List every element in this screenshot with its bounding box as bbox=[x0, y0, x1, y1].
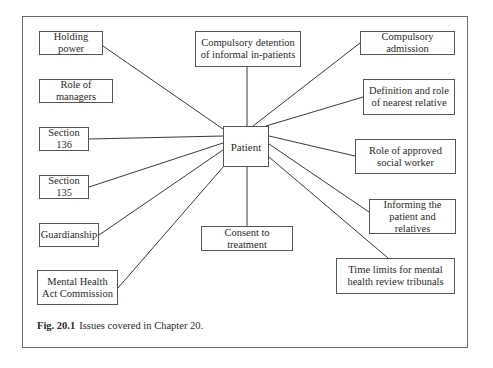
compulsory-detention-node: Compulsory detention of informal in-pati… bbox=[195, 31, 301, 67]
section-136-label: Section 136 bbox=[43, 127, 85, 151]
approved-social-worker-label: Role of approved social worker bbox=[359, 145, 452, 169]
connector-nearest-relative bbox=[266, 97, 363, 126]
guardianship-node: Guardianship bbox=[39, 223, 99, 247]
connector-guardianship bbox=[99, 150, 223, 235]
informing-label: Informing the patient and relatives bbox=[373, 199, 452, 235]
section-135-node: Section 135 bbox=[39, 175, 89, 199]
nearest-relative-label: Definition and role of nearest relative bbox=[367, 85, 451, 109]
approved-social-worker-node: Role of approved social worker bbox=[355, 139, 456, 174]
holding-power-label: Holding power bbox=[43, 31, 99, 55]
section-136-node: Section 136 bbox=[39, 127, 89, 151]
mhac-label: Mental Health Act Commission bbox=[41, 276, 114, 300]
time-limits-node: Time limits for mental health review tri… bbox=[336, 258, 455, 294]
compulsory-detention-label: Compulsory detention of informal in-pati… bbox=[199, 37, 297, 61]
informing-node: Informing the patient and relatives bbox=[369, 199, 456, 234]
figure-caption-text: Issues covered in Chapter 20. bbox=[79, 320, 203, 331]
figure-number: Fig. 20.1 bbox=[37, 320, 75, 331]
compulsory-admission-label: Compulsory admission bbox=[364, 31, 451, 55]
holding-power-node: Holding power bbox=[39, 31, 103, 55]
connector-section-136 bbox=[89, 136, 223, 139]
nearest-relative-node: Definition and role of nearest relative bbox=[363, 79, 455, 115]
consent-label: Consent to treatment bbox=[205, 227, 289, 251]
mhac-node: Mental Health Act Commission bbox=[37, 270, 118, 305]
figure-caption: Fig. 20.1Issues covered in Chapter 20. bbox=[37, 320, 203, 331]
section-135-label: Section 135 bbox=[43, 175, 85, 199]
time-limits-label: Time limits for mental health review tri… bbox=[340, 264, 451, 288]
patient-node: Patient bbox=[223, 126, 269, 167]
guardianship-label: Guardianship bbox=[41, 229, 98, 241]
connector-section-135 bbox=[89, 143, 223, 187]
compulsory-admission-node: Compulsory admission bbox=[360, 31, 455, 55]
connector-informing bbox=[269, 144, 369, 212]
role-of-managers-node: Role of managers bbox=[39, 79, 113, 103]
role-of-managers-label: Role of managers bbox=[43, 79, 109, 103]
patient-label: Patient bbox=[231, 141, 262, 153]
consent-node: Consent to treatment bbox=[201, 226, 293, 251]
